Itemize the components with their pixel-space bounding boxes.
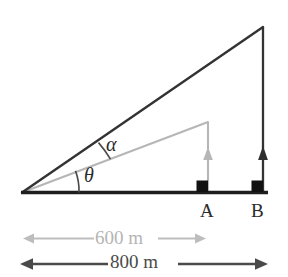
geometry-figure: α θ A B 600 m 800 m bbox=[0, 0, 288, 277]
arrow-up-icon-b bbox=[258, 146, 268, 160]
gray-sightline-group bbox=[22, 122, 213, 193]
arrow-left-icon-800 bbox=[20, 258, 33, 270]
dark-triangle-group bbox=[21, 27, 268, 193]
arrow-right-icon-800 bbox=[255, 258, 268, 270]
alpha-angle-label: α bbox=[106, 134, 117, 154]
right-angle-marker-icon-b bbox=[252, 181, 264, 193]
arrow-up-icon-a bbox=[203, 147, 213, 160]
right-angle-marker-icon-a bbox=[197, 181, 209, 193]
arrow-left-icon-600 bbox=[23, 234, 34, 244]
dimension-label-600: 600 m bbox=[95, 228, 143, 247]
figure-canvas bbox=[0, 0, 288, 277]
dimension-label-800: 800 m bbox=[110, 252, 158, 271]
point-b-label: B bbox=[251, 201, 264, 220]
arrow-right-icon-600 bbox=[195, 234, 206, 244]
theta-angle-arc bbox=[76, 171, 80, 193]
point-a-label: A bbox=[200, 201, 214, 220]
theta-angle-label: θ bbox=[84, 165, 94, 185]
dark-hypotenuse-line bbox=[22, 27, 263, 193]
